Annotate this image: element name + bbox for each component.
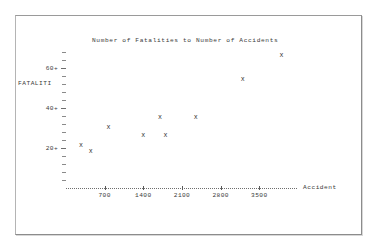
y-axis-minor-tick xyxy=(62,76,66,77)
x-axis-tick-label: 1400 xyxy=(128,192,158,199)
y-axis-minor-tick xyxy=(62,52,66,53)
y-axis-major-tick xyxy=(61,148,66,149)
y-axis-minor-tick xyxy=(62,124,66,125)
page-title: Number of Fatalities to Number of Accide… xyxy=(92,37,278,44)
y-axis-minor-tick xyxy=(62,180,66,181)
y-axis-minor-tick xyxy=(62,156,66,157)
x-axis-label: Accident xyxy=(303,184,337,191)
y-axis-minor-tick xyxy=(62,172,66,173)
y-axis-tick-label: 20+ xyxy=(36,145,58,152)
y-axis-minor-tick xyxy=(62,100,66,101)
y-axis-major-tick xyxy=(61,68,66,69)
x-axis-tick-label: 700 xyxy=(90,192,120,199)
data-point-marker: x xyxy=(140,133,147,140)
y-axis-label: FATALITI xyxy=(18,80,52,87)
x-axis-tick xyxy=(259,186,260,190)
x-axis-tick xyxy=(182,186,183,190)
data-point-marker: x xyxy=(156,115,163,122)
data-point-marker: x xyxy=(87,149,94,156)
x-axis-tick xyxy=(221,186,222,190)
data-point-marker: x xyxy=(105,125,112,132)
y-axis-minor-tick xyxy=(62,116,66,117)
x-axis-tick-label: 2100 xyxy=(167,192,197,199)
data-point-marker: x xyxy=(77,143,84,150)
screenshot-canvas: Number of Fatalities to Number of Accide… xyxy=(0,0,380,246)
data-point-marker: x xyxy=(278,53,285,60)
y-axis-minor-tick xyxy=(62,60,66,61)
x-axis-tick-label: 3500 xyxy=(244,192,274,199)
scatter-plot: Number of Fatalities to Number of Accide… xyxy=(0,0,380,246)
data-point-marker: x xyxy=(192,115,199,122)
y-axis-minor-tick xyxy=(62,164,66,165)
y-axis-tick-label: 40+ xyxy=(36,105,58,112)
y-axis-minor-tick xyxy=(62,84,66,85)
data-point-marker: x xyxy=(162,133,169,140)
y-axis-tick-label: 60+ xyxy=(36,65,58,72)
x-axis-tick xyxy=(105,186,106,190)
data-point-marker: x xyxy=(239,77,246,84)
y-axis-minor-tick xyxy=(62,132,66,133)
x-axis-tick xyxy=(143,186,144,190)
y-axis-minor-tick xyxy=(62,92,66,93)
y-axis-major-tick xyxy=(61,108,66,109)
y-axis-minor-tick xyxy=(62,140,66,141)
x-axis-tick-label: 2800 xyxy=(206,192,236,199)
